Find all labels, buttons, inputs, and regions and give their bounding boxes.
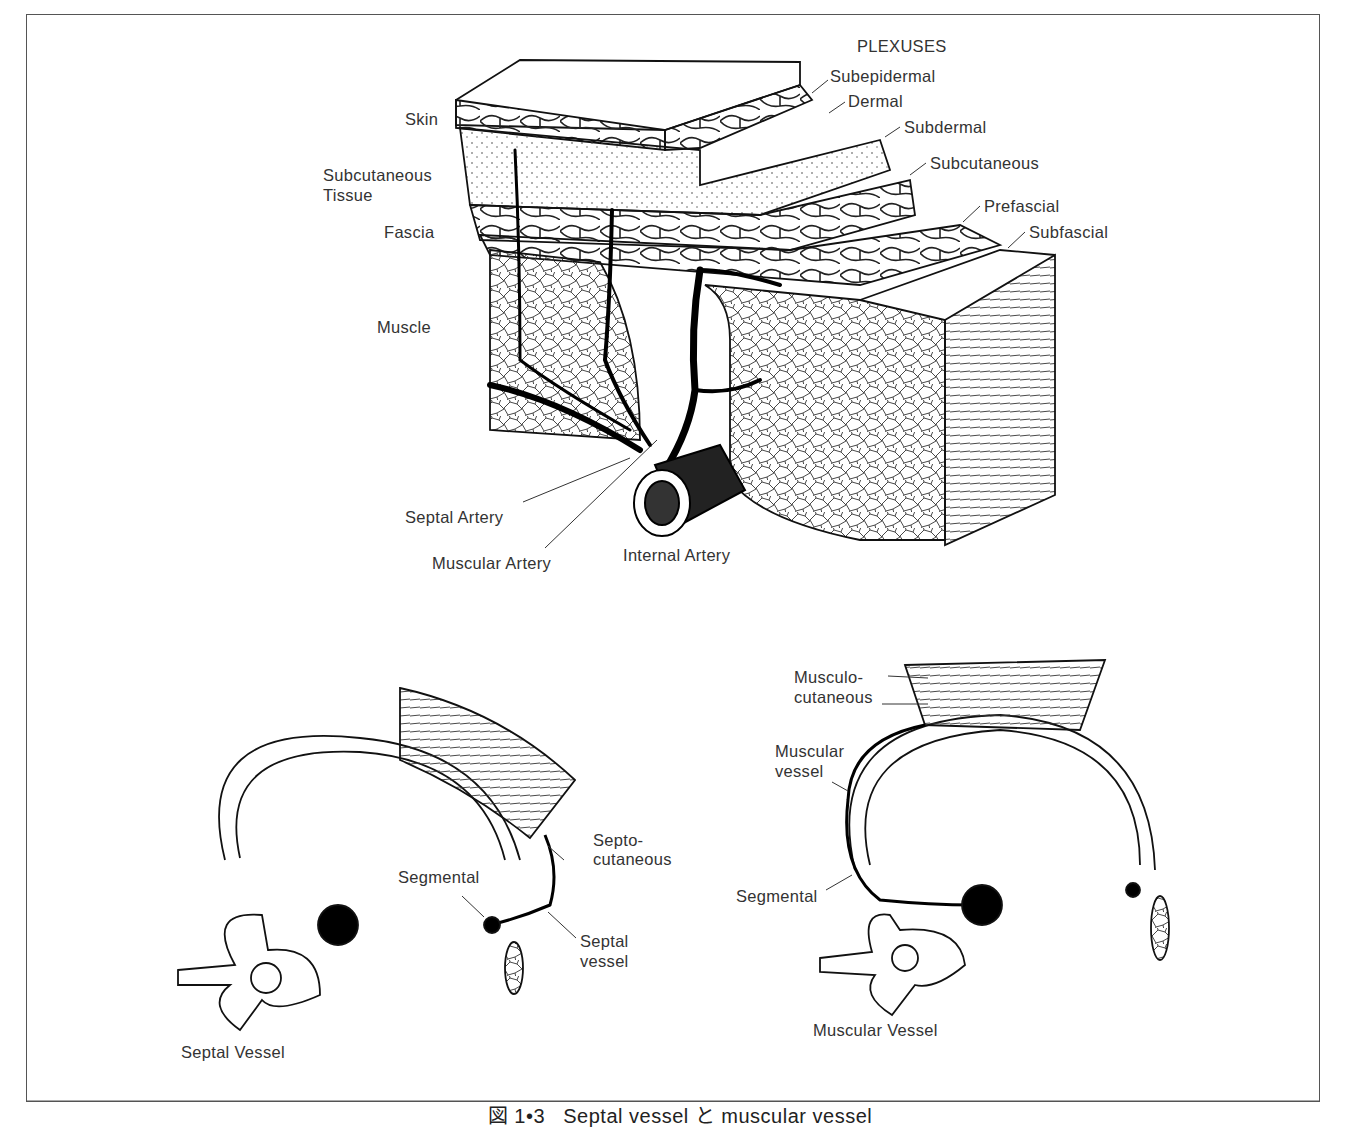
title-muscular-vessel: Muscular Vessel	[813, 1020, 938, 1040]
label-internal-artery: Internal Artery	[623, 545, 730, 565]
label-septo-cutaneous-1: Septo-	[593, 830, 643, 850]
label-muscle: Muscle	[377, 317, 431, 337]
label-muscular-artery: Muscular Artery	[432, 553, 551, 573]
label-subfascial: Subfascial	[1029, 222, 1108, 242]
label-skin: Skin	[405, 109, 438, 129]
title-septal-vessel: Septal Vessel	[181, 1042, 285, 1062]
caption-prefix: 図 1•3	[488, 1105, 545, 1127]
label-prefascial: Prefascial	[984, 196, 1059, 216]
caption-text: Septal vessel と muscular vessel	[563, 1105, 872, 1127]
label-musculo-cutaneous-1: Musculo-	[794, 667, 863, 687]
label-septo-cutaneous-2: cutaneous	[593, 849, 672, 869]
muscular-vessel-diagram	[820, 660, 1169, 1015]
plexuses-header: PLEXUSES	[857, 36, 947, 56]
label-subcutaneous-tissue-1: Subcutaneous	[323, 165, 432, 185]
septal-vessel-diagram	[178, 688, 575, 1030]
label-musculo-cutaneous-2: cutaneous	[794, 687, 873, 707]
label-muscular-vessel-2: vessel	[775, 761, 824, 781]
label-subcutaneous-plexus: Subcutaneous	[930, 153, 1039, 173]
internal-artery-tube	[634, 445, 745, 536]
label-septal-artery: Septal Artery	[405, 507, 503, 527]
label-subcutaneous-tissue-2: Tissue	[323, 185, 373, 205]
label-segmental-left: Segmental	[398, 867, 480, 887]
label-dermal: Dermal	[848, 91, 903, 111]
label-septal-vessel-2: vessel	[580, 951, 629, 971]
label-subepidermal: Subepidermal	[830, 66, 935, 86]
leader-lines-bottom-left	[462, 846, 576, 938]
label-subdermal: Subdermal	[904, 117, 987, 137]
label-muscular-vessel-1: Muscular	[775, 741, 844, 761]
label-fascia: Fascia	[384, 222, 434, 242]
label-septal-vessel-1: Septal	[580, 931, 629, 951]
figure-caption: 図 1•3 Septal vessel と muscular vessel	[0, 1100, 1360, 1129]
label-segmental-right: Segmental	[736, 886, 818, 906]
